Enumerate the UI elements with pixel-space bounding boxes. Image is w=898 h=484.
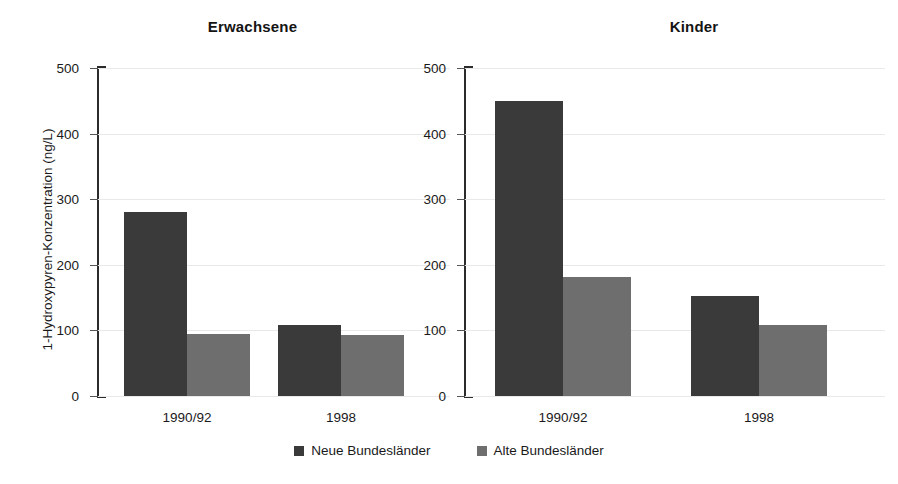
bar-neue-bundeslaender-1998 (278, 325, 341, 396)
tick-label-0-kinder: 0 (438, 389, 446, 404)
tick-label-100: 100 (56, 323, 79, 338)
tick-label-100-kinder: 100 (423, 323, 446, 338)
tick-label-200: 200 (56, 257, 79, 272)
tick-500: 500 (90, 68, 98, 69)
bar-neue-bundeslaender-1998-kinder (691, 296, 759, 396)
x-axis-label-1990-92-kinder: 1990/92 (539, 410, 588, 425)
tick-label-400: 400 (56, 126, 79, 141)
legend-item-neue-bundeslaender: Neue Bundesländer (294, 443, 430, 458)
tick-label-200-kinder: 200 (423, 257, 446, 272)
tick-label-300: 300 (56, 192, 79, 207)
bar-alte-bundeslaender-1998 (341, 335, 404, 396)
bar-alte-bundeslaender-1998-kinder (759, 325, 827, 396)
chart-panel-erwachsene: Erwachsene 1-Hydroxypyren-Konzentration … (0, 0, 455, 440)
panel-title-kinder: Kinder (440, 18, 898, 35)
tick-300-kinder: 300 (457, 199, 465, 200)
bar-group-1998: 1998 (278, 68, 404, 396)
plot-area-kinder: 500 400 300 200 100 0 (465, 68, 885, 396)
chart-legend: Neue Bundesländer Alte Bundesländer (0, 443, 898, 458)
tick-label-300-kinder: 300 (423, 192, 446, 207)
x-axis-label-1990-92: 1990/92 (163, 410, 212, 425)
gridline-0 (98, 396, 450, 397)
tick-200-kinder: 200 (457, 265, 465, 266)
legend-swatch-icon-alte (477, 446, 487, 456)
bar-alte-bundeslaender-1990-92 (187, 334, 250, 396)
bar-alte-bundeslaender-1990-92-kinder (563, 277, 631, 396)
tick-label-0: 0 (71, 389, 79, 404)
legend-label-neue: Neue Bundesländer (311, 443, 430, 458)
tick-0: 0 (90, 396, 98, 397)
x-axis-label-1998-kinder: 1998 (744, 410, 774, 425)
tick-400: 400 (90, 134, 98, 135)
legend-label-alte: Alte Bundesländer (494, 443, 604, 458)
gridline-0-kinder (465, 396, 885, 397)
tick-300: 300 (90, 199, 98, 200)
plot-area-erwachsene: 500 400 300 200 100 0 (98, 68, 450, 396)
chart-panel-kinder: Kinder 500 400 300 200 100 (440, 0, 898, 440)
tick-500-kinder: 500 (457, 68, 465, 69)
tick-100: 100 (90, 330, 98, 331)
tick-200: 200 (90, 265, 98, 266)
tick-label-500: 500 (56, 61, 79, 76)
bar-group-1998-kinder: 1998 (691, 68, 827, 396)
tick-label-500-kinder: 500 (423, 61, 446, 76)
chart-figure: Erwachsene 1-Hydroxypyren-Konzentration … (0, 0, 898, 484)
tick-label-400-kinder: 400 (423, 126, 446, 141)
y-axis-spine-kinder (464, 66, 466, 398)
bar-neue-bundeslaender-1990-92-kinder (495, 101, 563, 396)
bar-group-1990-92: 1990/92 (124, 68, 250, 396)
bar-neue-bundeslaender-1990-92 (124, 212, 187, 396)
tick-0-kinder: 0 (457, 396, 465, 397)
bar-group-1990-92-kinder: 1990/92 (495, 68, 631, 396)
legend-swatch-icon-neue (294, 446, 304, 456)
tick-400-kinder: 400 (457, 134, 465, 135)
y-axis-spine (97, 66, 99, 398)
x-axis-label-1998: 1998 (326, 410, 356, 425)
legend-item-alte-bundeslaender: Alte Bundesländer (477, 443, 604, 458)
panel-title-erwachsene: Erwachsene (0, 18, 455, 35)
tick-100-kinder: 100 (457, 330, 465, 331)
y-axis-title: 1-Hydroxypyren-Konzentration (ng/L) (40, 75, 55, 405)
